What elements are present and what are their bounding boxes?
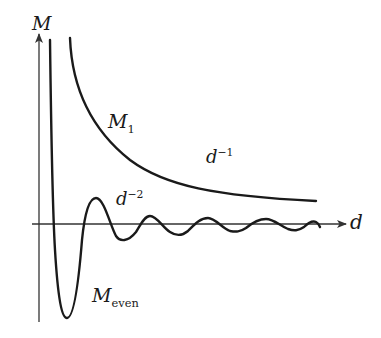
curve-label-Meven-main: M: [92, 284, 111, 306]
curve-M1: [70, 38, 316, 201]
curve-label-M1-main: M: [108, 110, 127, 132]
decay-label-d1-base: d: [206, 146, 218, 167]
curve-label-M1: M1: [108, 112, 135, 131]
curve-label-M1-subscript: 1: [127, 122, 134, 136]
x-axis-label: d: [350, 212, 363, 232]
decay-label-d-inverse-2: d−2: [116, 190, 143, 208]
curve-label-Meven: Meven: [92, 286, 139, 305]
decay-label-d-inverse-1: d−1: [206, 148, 233, 166]
decay-label-d1-exponent: −1: [218, 146, 234, 159]
curve-label-Meven-subscript: even: [111, 296, 138, 310]
curve-Meven: [50, 40, 320, 318]
diagram-canvas: [0, 0, 381, 338]
decay-label-d2-exponent: −2: [128, 188, 144, 201]
decay-label-d2-base: d: [116, 188, 128, 209]
y-axis-label: M: [32, 14, 51, 33]
